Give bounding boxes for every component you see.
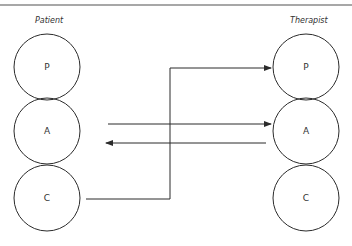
therapist-ego-states: P A C <box>273 34 339 231</box>
patient-child-label: C <box>44 193 50 203</box>
therapist-child-label: C <box>303 193 309 203</box>
patient-parent-label: P <box>44 62 50 72</box>
therapist-parent-label: P <box>303 62 309 72</box>
patient-adult-label: A <box>44 126 51 136</box>
patient-label: Patient <box>35 16 64 25</box>
therapist-adult-label: A <box>303 126 310 136</box>
therapist-label: Therapist <box>290 16 329 25</box>
transactional-analysis-diagram: Patient Therapist P A C P A C <box>0 0 352 246</box>
patient-ego-states: P A C <box>14 34 80 231</box>
child-to-parent-arrow <box>86 68 271 199</box>
